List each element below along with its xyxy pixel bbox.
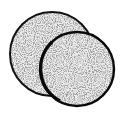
illustration-canvas [0, 0, 126, 115]
front-disc [40, 32, 114, 106]
two-discs-illustration [0, 0, 126, 115]
